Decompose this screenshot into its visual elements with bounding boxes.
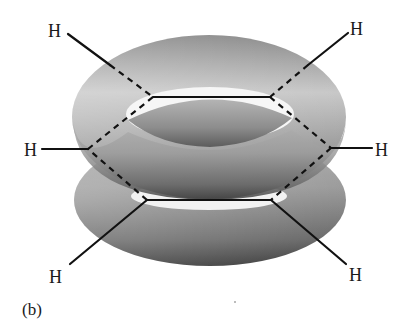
bond-ch-top-left-outer: [68, 34, 110, 65]
speck: [234, 301, 236, 303]
hydrogen-label-bottom-left: H: [49, 267, 62, 287]
upper-pi-cloud-torus: [72, 35, 346, 200]
hydrogen-label-right: H: [375, 140, 388, 160]
hydrogen-label-bottom-right: H: [349, 265, 362, 285]
hydrogen-label-top-left: H: [48, 21, 61, 41]
hydrogen-label-left: H: [24, 140, 37, 160]
bond-ch-top-right-outer: [308, 33, 348, 65]
hydrogen-label-top-right: H: [350, 19, 363, 39]
benzene-pi-orbital-diagram: H H H H H H (b): [0, 0, 412, 333]
panel-label: (b): [22, 300, 42, 319]
